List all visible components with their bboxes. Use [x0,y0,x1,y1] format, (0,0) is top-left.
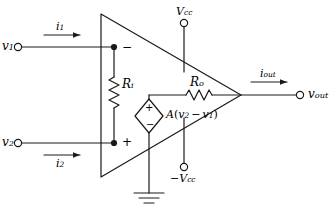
inverting-input-sign: − [122,41,132,53]
input1-terminal-circle [14,43,21,50]
noninverting-input-sign: + [122,136,132,148]
vcc-positive-terminal-circle [180,19,187,26]
vcc-negative-terminal-circle [180,163,187,170]
i2-arrow-head [73,152,80,157]
input2-terminal-circle [14,139,21,146]
ro-label: Ro [190,76,204,88]
iout-arrow-head [280,79,287,84]
output-label: vout [308,88,328,100]
ri-zigzag [109,77,119,108]
ro-zigzag [186,90,212,100]
i1-arrow-head [73,32,80,37]
iout-label: iout [260,68,276,79]
circuit-diagram: v1 v2 i1 i2 iout vout Vcc −Vcc Ri Ro A(v… [0,0,332,217]
i2-label: i2 [56,158,64,169]
input2-label: v2 [2,136,14,148]
vcc-negative-label: −Vcc [170,173,196,184]
vcc-positive-label: Vcc [176,6,192,17]
source-minus-sign: − [146,120,154,130]
i1-label: i1 [56,21,64,32]
input1-label: v1 [2,40,14,52]
dependent-source-label: A(v2−v1) [166,109,218,120]
output-terminal-circle [296,91,303,98]
source-plus-sign: + [145,103,153,113]
ri-label: Ri [122,78,134,90]
